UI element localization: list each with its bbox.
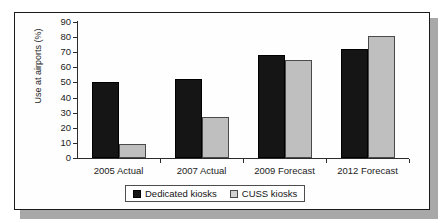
- bar-dedicated-kiosks-2005-actual: [92, 82, 119, 158]
- x-tick-mark-3: [326, 159, 327, 163]
- bar-cuss-kiosks-2009-forecast: [285, 60, 312, 158]
- legend-item-dedicated: Dedicated kiosks: [133, 188, 217, 199]
- bar-cuss-kiosks-2012-forecast: [368, 36, 395, 158]
- legend-label: Dedicated kiosks: [145, 188, 217, 199]
- y-axis-tick-labels: 9080706050403020100: [45, 13, 71, 211]
- figure-wrapper: Use at airports (%) 9080706050403020100 …: [0, 0, 444, 223]
- y-tick-mark-80: [73, 37, 77, 38]
- x-label-2007-actual: 2007 Actual: [160, 165, 243, 176]
- x-tick-mark-1: [160, 159, 161, 163]
- bar-cuss-kiosks-2007-actual: [202, 117, 229, 158]
- legend-item-cuss: CUSS kiosks: [230, 188, 297, 199]
- dedicated-swatch-icon: [133, 190, 141, 198]
- y-axis-title: Use at airports (%): [33, 6, 43, 126]
- y-tick-mark-10: [73, 143, 77, 144]
- y-tick-label-70: 70: [51, 47, 71, 57]
- cuss-swatch-icon: [230, 190, 238, 198]
- plot-area: Use at airports (%) 9080706050403020100 …: [15, 13, 431, 211]
- y-tick-mark-20: [73, 128, 77, 129]
- x-label-2009-forecast: 2009 Forecast: [243, 165, 326, 176]
- y-tick-mark-30: [73, 113, 77, 114]
- legend-label: CUSS kiosks: [242, 188, 297, 199]
- bars-layer: [77, 13, 409, 211]
- y-tick-mark-50: [73, 82, 77, 83]
- y-tick-label-0: 0: [51, 153, 71, 163]
- x-label-2005-actual: 2005 Actual: [77, 165, 160, 176]
- y-tick-label-50: 50: [51, 77, 71, 87]
- x-tick-mark-end: [409, 159, 410, 163]
- y-tick-mark-40: [73, 98, 77, 99]
- x-tick-mark-2: [243, 159, 244, 163]
- chart-frame: Use at airports (%) 9080706050403020100 …: [14, 12, 430, 210]
- bar-dedicated-kiosks-2012-forecast: [341, 49, 368, 158]
- chart-legend: Dedicated kiosksCUSS kiosks: [125, 185, 305, 202]
- bar-cuss-kiosks-2005-actual: [119, 144, 146, 158]
- y-tick-mark-70: [73, 52, 77, 53]
- bar-dedicated-kiosks-2009-forecast: [258, 55, 285, 158]
- y-tick-mark-60: [73, 67, 77, 68]
- bar-dedicated-kiosks-2007-actual: [175, 79, 202, 158]
- y-tick-label-30: 30: [51, 108, 71, 118]
- y-tick-mark-90: [73, 22, 77, 23]
- x-label-2012-forecast: 2012 Forecast: [326, 165, 409, 176]
- x-axis-category-labels: 2005 Actual2007 Actual2009 Forecast2012 …: [77, 165, 409, 179]
- y-tick-mark-0: [73, 158, 77, 159]
- y-tick-label-90: 90: [51, 17, 71, 27]
- y-tick-label-40: 40: [51, 93, 71, 103]
- y-tick-label-20: 20: [51, 123, 71, 133]
- y-tick-label-80: 80: [51, 32, 71, 42]
- y-tick-label-10: 10: [51, 138, 71, 148]
- y-tick-label-60: 60: [51, 62, 71, 72]
